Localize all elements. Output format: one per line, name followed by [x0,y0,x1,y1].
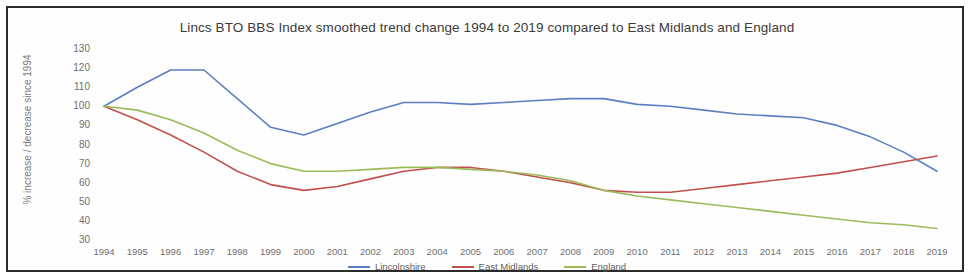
legend-label: Lincolnshire [375,261,426,272]
legend-item[interactable]: Lincolnshire [348,261,426,272]
legend-label: England [591,261,626,272]
legend-item[interactable]: East Midlands [452,261,539,272]
legend-item[interactable]: England [564,261,626,272]
series-line-england [104,106,937,228]
series-line-lincolnshire [104,70,937,171]
chart-legend: LincolnshireEast MidlandsEngland [8,261,966,272]
legend-swatch-icon [564,266,586,268]
plot-lines [8,8,966,274]
legend-swatch-icon [452,266,474,268]
chart-area: Lincs BTO BBS Index smoothed trend chang… [8,8,966,274]
legend-label: East Midlands [479,261,539,272]
legend-swatch-icon [348,266,370,268]
chart-figure-frame: Lincs BTO BBS Index smoothed trend chang… [6,6,964,272]
